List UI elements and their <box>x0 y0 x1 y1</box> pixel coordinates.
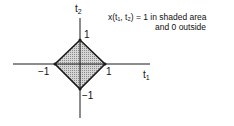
tick-label-right: 1 <box>106 67 112 77</box>
definition-annotation: x(t₁, t₂) = 1 in shaded area and 0 outsi… <box>108 12 207 32</box>
horizontal-axis-label: t1 <box>143 70 150 81</box>
vertex-left <box>54 63 57 66</box>
tick-label-left: −1 <box>38 67 49 77</box>
vertical-axis-label: t2 <box>75 4 82 15</box>
annotation-line-2: and 0 outside <box>108 22 207 32</box>
vertex-top <box>79 39 82 42</box>
annotation-line-1: x(t₁, t₂) = 1 in shaded area <box>108 12 207 22</box>
tick-label-bottom: −1 <box>82 91 93 101</box>
tick-label-top: 1 <box>84 30 90 40</box>
